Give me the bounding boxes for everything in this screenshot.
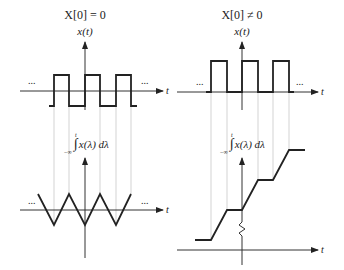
right-top-ylabel: x(t)	[233, 25, 250, 38]
right-integral-lower: −∞	[220, 149, 228, 155]
right-integral-label: ∫x(λ) dλ	[229, 136, 265, 152]
diagram-canvas: X[0] = 0 x(t) t ... ... ∫x(λ) dλ t −∞ t …	[0, 0, 344, 270]
right-bottom-xlabel: t	[321, 244, 324, 255]
left-integral-label: ∫x(λ) dλ	[73, 136, 109, 152]
left-top-xlabel: t	[166, 85, 169, 96]
left-bottom-xlabel: t	[166, 204, 169, 215]
left-title: X[0] = 0	[64, 8, 105, 22]
right-title: X[0] ≠ 0	[221, 8, 262, 22]
left-integral-lower: −∞	[64, 149, 72, 155]
right-top-ellipsis-right: ...	[296, 76, 304, 87]
left-bottom-ellipsis-left: ...	[28, 195, 36, 206]
left-bottom-ellipsis-right: ...	[141, 195, 149, 206]
left-panel: X[0] = 0 x(t) t ... ... ∫x(λ) dλ t −∞ t …	[20, 8, 169, 258]
right-top-xlabel: t	[321, 86, 324, 97]
left-top-ylabel: x(t)	[76, 25, 93, 38]
right-panel: X[0] ≠ 0 x(t) t ... ... ∫x(λ) dλ t −∞ t	[177, 8, 324, 265]
left-top-ellipsis-left: ...	[28, 75, 36, 86]
left-top-ellipsis-right: ...	[141, 75, 149, 86]
right-top-ellipsis-left: ...	[196, 76, 204, 87]
right-staircase-ramp	[195, 150, 305, 240]
right-pulse-train	[206, 61, 294, 92]
right-bottom-y-axis-with-break	[239, 158, 245, 265]
left-guide-lines	[54, 106, 131, 225]
